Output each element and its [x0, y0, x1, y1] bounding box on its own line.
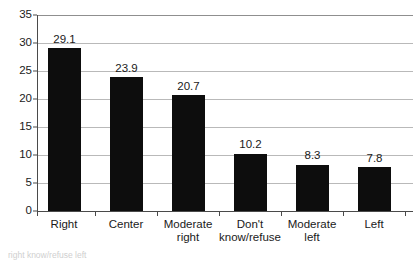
bar-group-center: 23.9: [110, 15, 143, 211]
bar-value-center: 23.9: [115, 63, 137, 75]
xlabel-dont-know-refuse-line1: Don't: [237, 218, 264, 230]
xtick-mark-2: [157, 211, 158, 216]
xlabel-moderate-left-line1: Moderate: [288, 218, 337, 230]
bar-rect-dont-know-refuse: [234, 154, 267, 211]
bar-group-right: 29.1: [48, 15, 81, 211]
xtick-mark-6: [405, 211, 406, 216]
xtick-mark-3: [219, 211, 220, 216]
figure-caption: right know/refuse left: [8, 250, 420, 260]
xlabel-left: Left: [364, 218, 383, 231]
bars-layer: 29.1 23.9 20.7 10.2 8.3 7.8: [37, 15, 413, 211]
xlabel-right: Right: [51, 218, 78, 231]
xlabel-moderate-left-line2: left: [288, 231, 337, 244]
bar-rect-moderate-right: [172, 95, 205, 211]
plot-area: 35 30 25 20 15 10 5 0 29.1 23.9 20.7 10.…: [37, 15, 413, 211]
y-axis-line: [37, 15, 38, 211]
xlabel-moderate-right: Moderate right: [164, 218, 213, 243]
xlabel-moderate-left: Moderate left: [288, 218, 337, 243]
xlabel-dont-know-refuse-line2: know/refuse: [219, 231, 281, 244]
bar-group-moderate-right: 20.7: [172, 15, 205, 211]
xtick-mark-4: [281, 211, 282, 216]
ytick-label-0: 0: [26, 205, 32, 217]
xlabel-center: Center: [109, 218, 144, 231]
bar-value-right: 29.1: [53, 34, 75, 46]
xtick-mark-0: [37, 211, 38, 216]
xtick-mark-5: [343, 211, 344, 216]
bar-value-moderate-right: 20.7: [177, 81, 199, 93]
ytick-label-20: 20: [19, 93, 32, 105]
xlabel-dont-know-refuse: Don't know/refuse: [219, 218, 281, 243]
bar-group-moderate-left: 8.3: [296, 15, 329, 211]
xlabel-center-line1: Center: [109, 218, 144, 230]
bar-rect-right: [48, 48, 81, 211]
xlabel-left-line1: Left: [364, 218, 383, 230]
bar-value-moderate-left: 8.3: [305, 150, 321, 162]
bar-rect-moderate-left: [296, 165, 329, 211]
ytick-label-15: 15: [19, 121, 32, 133]
bar-group-dont-know-refuse: 10.2: [234, 15, 267, 211]
bar-value-left: 7.8: [367, 153, 383, 165]
bar-value-dont-know-refuse: 10.2: [239, 139, 261, 151]
ytick-label-5: 5: [26, 177, 32, 189]
bar-rect-left: [358, 167, 391, 211]
bar-rect-center: [110, 77, 143, 211]
ytick-label-30: 30: [19, 37, 32, 49]
bar-group-left: 7.8: [358, 15, 391, 211]
ytick-label-10: 10: [19, 149, 32, 161]
ytick-label-25: 25: [19, 65, 32, 77]
xlabel-moderate-right-line2: right: [164, 231, 213, 244]
ytick-label-35: 35: [19, 9, 32, 21]
xlabel-right-line1: Right: [51, 218, 78, 230]
xtick-mark-1: [95, 211, 96, 216]
xlabel-moderate-right-line1: Moderate: [164, 218, 213, 230]
